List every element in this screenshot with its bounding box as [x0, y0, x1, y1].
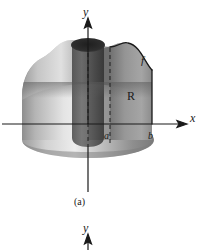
next-figure-y-axis [85, 234, 92, 250]
next-figure-y-axis-arrowhead [85, 234, 92, 244]
x-axis-label: x [190, 112, 195, 124]
x-axis-arrowhead [177, 121, 187, 128]
curve-label-f: f [141, 55, 144, 66]
figure-solid-of-revolution: y x f R a b (a) y [0, 0, 206, 250]
figure-canvas [0, 0, 206, 250]
y-axis-arrowhead [85, 18, 92, 28]
bound-label-b: b [148, 131, 153, 141]
next-figure-y-axis-label: y [83, 222, 88, 234]
y-axis-label-top: y [83, 6, 88, 18]
bound-label-a: a [104, 131, 109, 141]
region-label-R: R [127, 90, 135, 102]
figure-caption: (a) [74, 196, 85, 207]
